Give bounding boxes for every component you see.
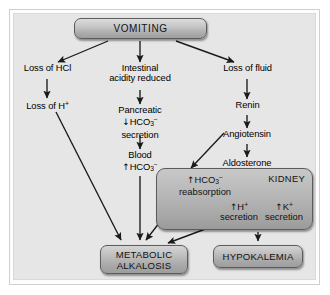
blood-hco3-sup: − <box>154 161 158 168</box>
node-vomiting: VOMITING <box>74 18 207 39</box>
node-loss-of-fluid: Loss of fluid <box>205 63 290 73</box>
node-kidney-box: KIDNEY ↑HCO3− reabsorption ↑H+ secretion… <box>156 168 313 230</box>
node-hypokalemia: HYPOKALEMIA <box>213 245 303 268</box>
down-arrow-icon: ↓ <box>122 117 129 127</box>
loss-of-h-label: Loss of H <box>26 100 65 111</box>
edge-vomiting-to-loss-fluid <box>176 41 234 62</box>
node-loss-of-h: Loss of H+ <box>10 99 85 111</box>
node-intestinal-acidity-reduced: Intestinal acidity reduced <box>92 63 188 84</box>
pancreatic-hco3-sup: − <box>154 116 158 123</box>
intestinal-line2: acidity reduced <box>109 72 171 83</box>
kidney-k-sup: + <box>289 201 293 208</box>
node-loss-of-hcl: Loss of HCl <box>10 63 85 73</box>
pancreatic-line3: secretion <box>121 129 158 140</box>
intestinal-line1: Intestinal <box>122 62 159 73</box>
node-renin: Renin <box>205 100 290 110</box>
blood-hco3-label: HCO <box>130 161 151 172</box>
kidney-k-secretion: ↑K+ secretion <box>260 200 308 222</box>
node-blood-hco3: Blood ↑HCO3− <box>99 150 181 175</box>
kidney-hco3-label: HCO <box>194 174 215 185</box>
pancreatic-line1: Pancreatic <box>118 104 161 115</box>
blood-line1: Blood <box>128 149 151 160</box>
kidney-hco3-reabsorption: ↑HCO3− reabsorption <box>162 173 248 198</box>
kidney-h-secretion: ↑H+ secretion <box>215 200 263 222</box>
figure-root: VOMITING KIDNEY ↑HCO3− reabsorption ↑H+ … <box>0 0 330 295</box>
kidney-h-line2: secretion <box>220 211 258 222</box>
kidney-k-line2: secretion <box>265 211 303 222</box>
kidney-hco3-line2: reabsorption <box>179 186 231 197</box>
metabolic-line2: ALKALOSIS <box>117 260 172 271</box>
node-pancreatic-hco3-secretion: Pancreatic ↓HCO3− secretion <box>99 105 181 140</box>
up-arrow-icon: ↑ <box>122 162 129 172</box>
node-metabolic-alkalosis: METABOLIC ALKALOSIS <box>100 245 188 274</box>
metabolic-line1: METABOLIC <box>116 249 173 260</box>
node-angiotensin: Angiotensin <box>202 129 292 139</box>
kidney-h-sup: + <box>244 201 248 208</box>
edge-vomiting-to-loss-hcl <box>58 41 108 62</box>
loss-of-h-sup: + <box>65 100 69 107</box>
pancreatic-hco3-label: HCO <box>130 116 151 127</box>
kidney-title: KIDNEY <box>268 174 305 184</box>
kidney-hco3-sup: − <box>219 174 223 181</box>
node-aldosterone: Aldosterone <box>202 158 292 168</box>
